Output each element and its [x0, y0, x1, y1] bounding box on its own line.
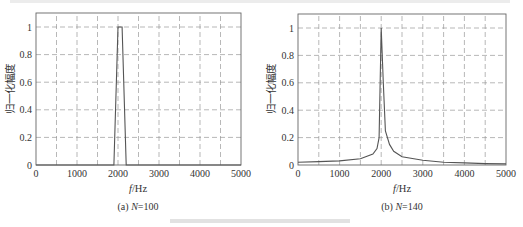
x-tick-label: 2000 [371, 168, 391, 179]
grid-b [298, 15, 506, 165]
x-axis-label-a: f/Hz [129, 183, 147, 194]
x-tick-label: 0 [34, 168, 39, 179]
y-tick-label: 0.6 [282, 77, 295, 88]
figure-caption-faint [170, 219, 350, 223]
ticks-a: 00.20.40.60.81010002000300040005000 [20, 22, 252, 180]
y-tick-label: 0.4 [20, 104, 33, 115]
x-tick-label: 4000 [190, 168, 210, 179]
y-tick-label: 0.4 [282, 105, 295, 116]
grid-a [36, 14, 241, 165]
y-tick-label: 0.8 [282, 50, 295, 61]
y-tick-label: 0 [27, 160, 32, 171]
y-tick-label: 1 [27, 22, 32, 33]
y-tick-label: 0 [289, 160, 294, 171]
chart-b: 00.20.40.60.81010002000300040005000 归一化幅… [265, 14, 516, 213]
x-tick-label: 3000 [413, 168, 433, 179]
y-tick-label: 0.6 [20, 77, 33, 88]
top-text-faint [10, 0, 510, 3]
x-tick-label: 4000 [454, 168, 474, 179]
chart-a: 00.20.40.60.81010002000300040005000 归一化幅… [4, 13, 251, 213]
x-tick-label: 2000 [108, 168, 128, 179]
x-axis-label-b: f/Hz [393, 183, 411, 194]
x-tick-label: 5000 [496, 168, 516, 179]
figure-canvas: 00.20.40.60.81010002000300040005000 归一化幅… [0, 0, 523, 227]
x-tick-label: 0 [296, 168, 301, 179]
subcaption-a: (a) N=100 [118, 201, 159, 213]
x-tick-label: 1000 [67, 168, 87, 179]
x-tick-label: 5000 [231, 168, 251, 179]
y-axis-label-b: 归一化幅度 [265, 63, 277, 114]
ticks-b: 00.20.40.60.81010002000300040005000 [282, 23, 517, 180]
x-tick-label: 1000 [330, 168, 350, 179]
y-tick-label: 0.2 [282, 132, 295, 143]
y-axis-label-a: 归一化幅度 [4, 63, 16, 114]
y-tick-label: 0.8 [20, 49, 33, 60]
x-tick-label: 3000 [149, 168, 169, 179]
y-tick-label: 0.2 [20, 132, 33, 143]
subcaption-b: (b) N=140 [381, 201, 422, 213]
y-tick-label: 1 [289, 23, 294, 34]
